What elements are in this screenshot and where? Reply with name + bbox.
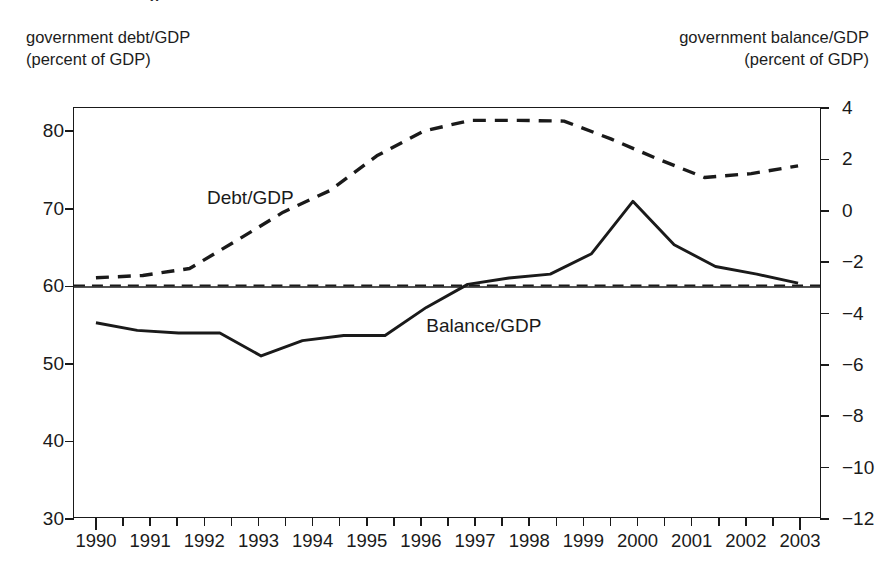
left-axis-tick <box>65 518 74 520</box>
x-axis-tick <box>745 517 747 526</box>
right-axis-tick <box>820 518 829 520</box>
plot-area: 304050607080420−2−4−6−8−10−1219901991199… <box>73 107 821 518</box>
x-axis-tick-label: 2000 <box>617 530 658 552</box>
x-axis-minor-tick <box>556 517 558 526</box>
right-axis-tick <box>820 159 829 161</box>
x-axis-tick-label: 1994 <box>292 530 333 552</box>
left-axis-tick-label: 80 <box>43 120 64 142</box>
x-axis-minor-tick <box>339 517 341 526</box>
x-axis-tick <box>366 517 368 526</box>
x-axis-tick-label: 1991 <box>130 530 171 552</box>
right-axis-tick-label: 0 <box>842 200 853 222</box>
x-axis-tick-label: 1996 <box>400 530 441 552</box>
x-axis-tick <box>312 517 314 526</box>
right-axis-tick <box>820 210 829 212</box>
x-axis-tick-label: 2003 <box>779 530 820 552</box>
x-axis-tick <box>799 517 801 530</box>
x-axis-tick <box>474 517 476 526</box>
left-axis-tick <box>65 363 74 365</box>
x-axis-tick <box>95 517 97 530</box>
left-axis-tick-label: 40 <box>43 430 64 452</box>
left-axis-tick <box>65 286 74 288</box>
x-axis-tick-label: 2001 <box>671 530 712 552</box>
right-axis-tick <box>820 107 829 109</box>
left-axis-tick-label: 50 <box>43 353 64 375</box>
left-axis-caption: government debt/GDP (percent of GDP) <box>26 26 190 70</box>
x-axis-minor-tick <box>447 517 449 526</box>
right-axis-tick <box>820 313 829 315</box>
right-axis-tick-label: 2 <box>842 148 853 170</box>
right-axis-tick-label: −4 <box>842 303 864 325</box>
x-axis-tick-label: 1999 <box>563 530 604 552</box>
left-axis-tick-label: 60 <box>43 275 64 297</box>
right-axis-tick-label: 4 <box>842 97 853 119</box>
x-axis-tick <box>420 517 422 526</box>
figure-chart: g government debt/GDP (percent of GDP) g… <box>0 0 893 586</box>
x-axis-tick <box>149 517 151 526</box>
right-axis-tick-label: −2 <box>842 251 864 273</box>
x-axis-minor-tick <box>393 517 395 526</box>
x-axis-tick-label: 1993 <box>238 530 279 552</box>
x-axis-tick-label: 1995 <box>346 530 387 552</box>
x-axis-minor-tick <box>285 517 287 526</box>
x-axis-tick <box>637 517 639 526</box>
left-axis-tick <box>65 208 74 210</box>
left-axis-tick <box>65 130 74 132</box>
series-annotation-debt-gdp: Debt/GDP <box>207 187 294 209</box>
x-axis-minor-tick <box>610 517 612 526</box>
left-axis-tick-label: 30 <box>43 508 64 530</box>
series-annotation-balance-gdp: Balance/GDP <box>426 315 541 337</box>
right-axis-tick <box>820 364 829 366</box>
right-axis-tick <box>820 467 829 469</box>
x-axis-minor-tick <box>122 517 124 526</box>
x-axis-tick-label: 1997 <box>454 530 495 552</box>
right-axis-tick-label: −10 <box>842 457 874 479</box>
right-axis-tick-label: −12 <box>842 508 874 530</box>
cut-off-title-fragment: g <box>150 0 159 1</box>
x-axis-minor-tick <box>231 517 233 526</box>
right-axis-tick-label: −8 <box>842 405 864 427</box>
x-axis-tick-label: 1992 <box>184 530 225 552</box>
x-axis-minor-tick <box>176 517 178 526</box>
x-axis-minor-tick <box>772 517 774 526</box>
x-axis-tick <box>258 517 260 526</box>
x-axis-minor-tick <box>664 517 666 526</box>
x-axis-minor-tick <box>501 517 503 526</box>
right-axis-caption: government balance/GDP (percent of GDP) <box>679 26 869 70</box>
left-axis-tick-label: 70 <box>43 198 64 220</box>
x-axis-tick <box>204 517 206 526</box>
x-axis-tick <box>583 517 585 526</box>
x-axis-tick <box>528 517 530 526</box>
x-axis-tick <box>691 517 693 526</box>
x-axis-minor-tick <box>718 517 720 526</box>
plot-canvas <box>74 108 820 517</box>
right-axis-tick <box>820 261 829 263</box>
x-axis-tick-label: 1998 <box>509 530 550 552</box>
x-axis-tick-label: 1990 <box>75 530 116 552</box>
right-axis-tick-label: −6 <box>842 354 864 376</box>
x-axis-tick-label: 2002 <box>725 530 766 552</box>
right-axis-tick <box>820 415 829 417</box>
left-axis-tick <box>65 441 74 443</box>
